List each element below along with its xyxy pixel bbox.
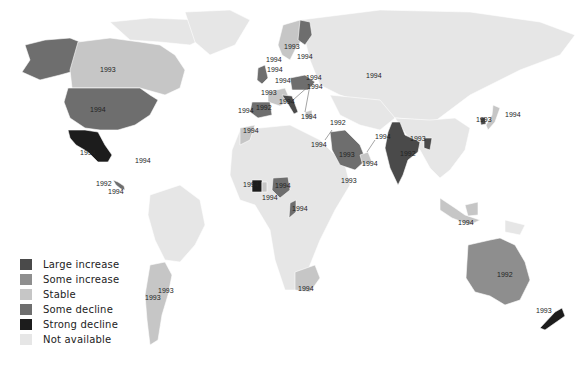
- legend-item-not-available: Not available: [20, 332, 119, 347]
- legend-label-some-increase: Some increase: [43, 274, 119, 285]
- region-borneo: [465, 202, 478, 216]
- label-indonesia: 1994: [458, 219, 474, 226]
- legend-swatch-strong-decline: [20, 319, 32, 330]
- legend-label-strong-decline: Strong decline: [43, 319, 118, 330]
- label-kuwait: 1994: [375, 133, 391, 140]
- label-australia: 1992: [497, 271, 513, 278]
- label-nigeria: 1994: [275, 182, 291, 189]
- label-bangladesh: 1993: [410, 135, 426, 142]
- label-ghana: 1994: [262, 194, 278, 201]
- label-egypt: 1994: [311, 141, 327, 148]
- region-united-states: [64, 88, 158, 130]
- label-france: 1993: [261, 89, 277, 96]
- region-mexico: [68, 130, 112, 162]
- label-sweden: 1994: [266, 56, 282, 63]
- legend-swatch-not-available: [20, 334, 32, 345]
- label-japan: 1994: [505, 111, 521, 118]
- legend-item-some-decline: Some decline: [20, 302, 119, 317]
- label-spain: 1992: [256, 104, 272, 111]
- region-south-america: [148, 185, 205, 262]
- region-canada: [70, 38, 185, 95]
- region-ghana: [262, 182, 267, 192]
- label-south-africa: 1994: [298, 285, 314, 292]
- label-congo: 1994: [292, 205, 308, 212]
- label-germany: 1994: [275, 77, 291, 84]
- label-united-states: 1994: [90, 106, 106, 113]
- region-argentina: [145, 262, 172, 345]
- legend-swatch-large-increase: [20, 259, 32, 270]
- legend-label-stable: Stable: [43, 289, 76, 300]
- legend-label-large-increase: Large increase: [43, 259, 119, 270]
- label-turkey: 1994: [366, 72, 382, 79]
- label-central-america-2: 1994: [108, 188, 124, 195]
- label-korea: 1993: [476, 116, 492, 123]
- label-italy: 1994: [279, 98, 295, 105]
- label-cuba: 1994: [135, 157, 151, 164]
- legend-item-strong-decline: Strong decline: [20, 317, 119, 332]
- label-poland: 1994: [306, 74, 322, 81]
- label-portugal: 1994: [238, 107, 254, 114]
- label-israel: 1992: [330, 119, 346, 126]
- label-hungary: 1994: [307, 83, 323, 90]
- label-morocco: 1994: [243, 127, 259, 134]
- label-ethiopia: 1993: [341, 177, 357, 184]
- label-finland-1: 1993: [284, 43, 300, 50]
- legend-label-some-decline: Some decline: [43, 304, 113, 315]
- label-saudi-arabia: 1993: [339, 151, 355, 158]
- label-india: 1992: [400, 150, 416, 157]
- label-uae: 1994: [362, 160, 378, 167]
- label-denmark: 1994: [267, 66, 283, 73]
- region-greenland: [185, 10, 250, 55]
- legend-label-not-available: Not available: [43, 334, 111, 345]
- label-uruguay: 1993: [158, 287, 174, 294]
- legend-item-some-increase: Some increase: [20, 272, 119, 287]
- legend-item-stable: Stable: [20, 287, 119, 302]
- label-argentina: 1993: [145, 294, 161, 301]
- label-greece: 1994: [301, 113, 317, 120]
- label-canada: 1993: [100, 66, 116, 73]
- legend-swatch-some-increase: [20, 274, 32, 285]
- map-legend: Large increase Some increase Stable Some…: [20, 257, 119, 347]
- legend-item-large-increase: Large increase: [20, 257, 119, 272]
- label-central-america-1: 1992: [96, 180, 112, 187]
- label-finland-2: 1994: [297, 53, 313, 60]
- label-mexico: 1994: [80, 149, 96, 156]
- legend-swatch-some-decline: [20, 304, 32, 315]
- legend-swatch-stable: [20, 289, 32, 300]
- label-cote-divoire: 1994: [243, 181, 259, 188]
- label-new-zealand: 1993: [536, 307, 552, 314]
- region-png: [505, 220, 525, 235]
